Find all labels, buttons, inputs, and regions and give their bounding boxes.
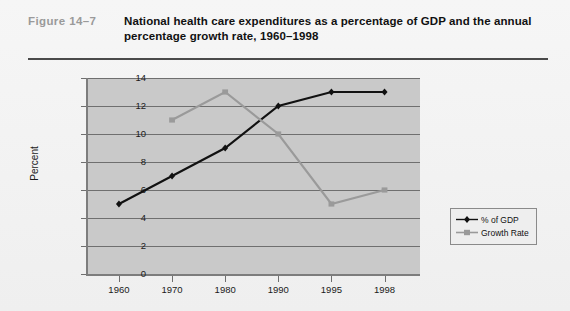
series-line-of-gdp <box>119 92 385 204</box>
data-point-diamond <box>382 89 388 96</box>
data-point-diamond <box>169 173 175 180</box>
legend-label-gdp: % of GDP <box>481 215 519 225</box>
data-point-square <box>275 131 281 136</box>
series-lines <box>20 66 550 298</box>
data-point-square <box>222 89 228 94</box>
figure-number-label: Figure 14–7 <box>28 14 124 27</box>
figure-title: National health care expenditures as a p… <box>124 14 548 44</box>
chart-legend: % of GDP Growth Rate <box>450 208 537 245</box>
chart-container: 02468101214 196019701980199019951998 Per… <box>20 66 550 298</box>
data-point-diamond <box>328 89 334 96</box>
legend-item-growth[interactable]: Growth Rate <box>456 226 529 239</box>
figure-header: Figure 14–7 National health care expendi… <box>28 14 548 44</box>
data-point-square <box>382 187 388 192</box>
legend-marker-diamond-icon <box>456 215 478 224</box>
legend-label-growth: Growth Rate <box>481 228 529 238</box>
data-point-square <box>329 201 335 206</box>
legend-item-gdp[interactable]: % of GDP <box>456 213 529 226</box>
data-point-square <box>169 117 175 122</box>
data-point-diamond <box>116 201 122 208</box>
header-divider <box>28 58 548 60</box>
legend-marker-square-icon <box>456 228 478 237</box>
figure-page: Figure 14–7 National health care expendi… <box>0 0 570 311</box>
